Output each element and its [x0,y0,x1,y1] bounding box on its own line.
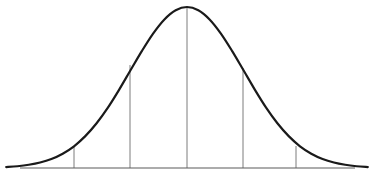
bell-curve-figure [0,0,369,177]
figure-background [0,0,369,177]
bell-curve-canvas [0,0,369,177]
